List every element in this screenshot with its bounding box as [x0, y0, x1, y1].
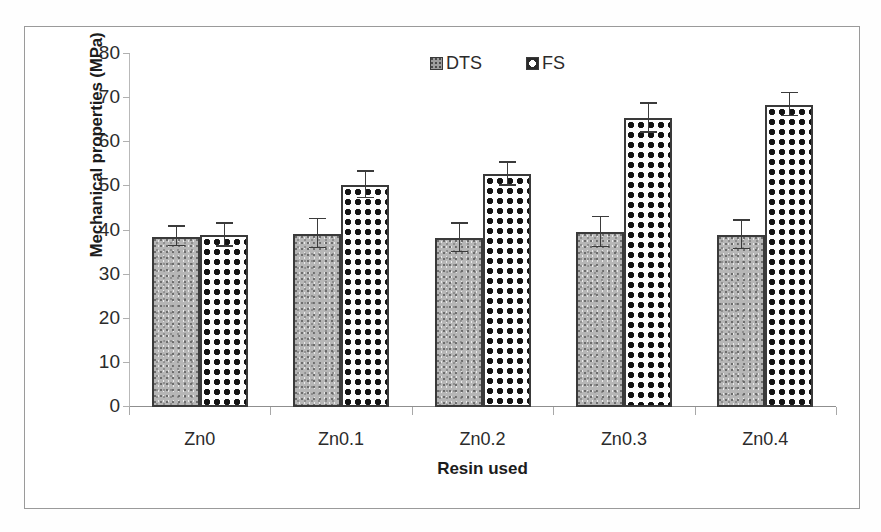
- chart-frame: Mechanical properties (MPa) DTS FS 01020…: [24, 26, 860, 509]
- x-axis-title: Resin used: [129, 459, 836, 479]
- y-tick: 10: [129, 362, 130, 363]
- x-tick-mark: [553, 407, 554, 415]
- y-tick-mark: [123, 141, 130, 142]
- bar-fs-Zn0.4: [765, 105, 813, 407]
- x-tick-mark: [129, 407, 130, 415]
- error-bar-cap-upper: [309, 218, 326, 220]
- error-bar-cap-upper: [781, 92, 798, 94]
- y-tick: 30: [129, 274, 130, 275]
- x-category-label-Zn0.2: Zn0.2: [423, 429, 543, 450]
- y-tick-mark: [123, 274, 130, 275]
- bar-fs-Zn0.1: [341, 185, 389, 407]
- y-tick-label: 20: [99, 307, 120, 329]
- error-bar-line: [600, 217, 601, 247]
- y-tick-mark: [123, 97, 130, 98]
- error-bar-cap-lower: [592, 246, 609, 248]
- x-category-label-Zn0.4: Zn0.4: [705, 429, 825, 450]
- x-category-label-Zn0.3: Zn0.3: [564, 429, 684, 450]
- x-category-label-Zn0: Zn0: [140, 429, 260, 450]
- error-bar-line: [789, 93, 790, 116]
- error-bar-cap-upper: [216, 222, 233, 224]
- y-tick-mark: [123, 53, 130, 54]
- error-bar-line: [176, 227, 177, 246]
- error-bar-cap-lower: [357, 197, 374, 199]
- y-tick-label: 0: [109, 395, 120, 417]
- error-bar-line: [224, 224, 225, 247]
- y-tick-label: 10: [99, 351, 120, 373]
- error-bar-cap-lower: [216, 245, 233, 247]
- x-tick-mark: [270, 407, 271, 415]
- error-bar-cap-upper: [357, 170, 374, 172]
- plot-area: 01020304050607080 Zn0Zn0.1Zn0.2Zn0.3Zn0.…: [129, 54, 836, 407]
- y-tick-mark: [123, 318, 130, 319]
- bar-group: Zn0.1: [293, 54, 389, 407]
- y-tick: 80: [129, 53, 130, 54]
- y-tick-mark: [123, 230, 130, 231]
- error-bar-cap-upper: [592, 216, 609, 218]
- bar-fs-Zn0.3: [624, 118, 672, 407]
- y-tick-label: 50: [99, 174, 120, 196]
- y-tick: 50: [129, 185, 130, 186]
- bar-group: Zn0: [152, 54, 248, 407]
- error-bar-cap-lower: [733, 248, 750, 250]
- bar-group: Zn0.3: [576, 54, 672, 407]
- error-bar-cap-upper: [451, 222, 468, 224]
- y-tick-mark: [123, 185, 130, 186]
- y-axis-line: [129, 54, 130, 407]
- y-tick: 70: [129, 97, 130, 98]
- bar-dts-Zn0.2: [435, 238, 483, 407]
- error-bar-line: [365, 172, 366, 198]
- error-bar-line: [507, 163, 508, 186]
- figure-root: Mechanical properties (MPa) DTS FS 01020…: [0, 0, 881, 532]
- error-bar-cap-lower: [309, 247, 326, 249]
- error-bar-cap-upper: [499, 161, 516, 163]
- error-bar-cap-lower: [781, 115, 798, 117]
- y-tick: 20: [129, 318, 130, 319]
- y-tick: 40: [129, 230, 130, 231]
- error-bar-line: [459, 224, 460, 252]
- error-bar-cap-lower: [640, 131, 657, 133]
- error-bar-line: [741, 221, 742, 249]
- y-tick-mark: [123, 362, 130, 363]
- y-tick-label: 40: [99, 219, 120, 241]
- bar-fs-Zn0.2: [483, 174, 531, 407]
- error-bar-cap-upper: [168, 225, 185, 227]
- x-tick-mark: [836, 407, 837, 415]
- bar-dts-Zn0.3: [576, 232, 624, 407]
- bar-dts-Zn0.1: [293, 234, 341, 407]
- error-bar-cap-upper: [640, 102, 657, 104]
- x-tick-mark: [412, 407, 413, 415]
- bar-dts-Zn0: [152, 237, 200, 407]
- error-bar-line: [648, 104, 649, 133]
- y-tick-label: 60: [99, 130, 120, 152]
- bar-dts-Zn0.4: [717, 235, 765, 407]
- bar-group: Zn0.4: [717, 54, 813, 407]
- error-bar-line: [317, 219, 318, 248]
- bar-fs-Zn0: [200, 235, 248, 407]
- error-bar-cap-lower: [168, 245, 185, 247]
- error-bar-cap-upper: [733, 219, 750, 221]
- y-tick-label: 80: [99, 42, 120, 64]
- error-bar-cap-lower: [451, 251, 468, 253]
- x-category-label-Zn0.1: Zn0.1: [281, 429, 401, 450]
- y-tick-label: 30: [99, 263, 120, 285]
- bar-group: Zn0.2: [435, 54, 531, 407]
- y-tick: 60: [129, 141, 130, 142]
- error-bar-cap-lower: [499, 184, 516, 186]
- x-tick-mark: [695, 407, 696, 415]
- y-tick-label: 70: [99, 86, 120, 108]
